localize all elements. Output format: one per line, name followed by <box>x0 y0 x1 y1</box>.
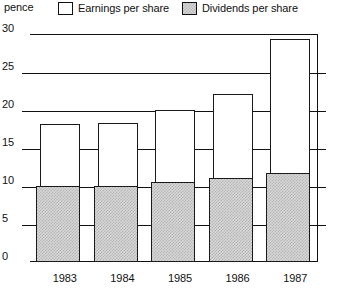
x-axis-tick-label: 1986 <box>210 272 266 284</box>
bar-dividends-1987[interactable] <box>266 173 310 262</box>
bar-group-1983 <box>36 34 94 262</box>
bar-group-1987 <box>266 34 324 262</box>
x-axis-tick-label: 1984 <box>94 272 150 284</box>
shaded-square-icon <box>182 2 197 15</box>
x-axis-tick-label: 1987 <box>267 272 323 284</box>
x-axis-labels: 19831984198519861987 <box>30 272 318 288</box>
bar-dividends-1984[interactable] <box>94 186 138 262</box>
bar-group-1986 <box>209 34 267 262</box>
y-axis-tick-label: 30 <box>2 23 24 34</box>
y-axis-tick-label: 15 <box>2 137 24 148</box>
y-axis-tick-label: 5 <box>2 213 24 224</box>
legend-item-earnings: Earnings per share <box>58 1 169 15</box>
legend-label-dividends: Dividends per share <box>202 2 298 14</box>
bar-group-1985 <box>151 34 209 262</box>
bar-chart: pence Earnings per share Dividends per s… <box>0 0 338 293</box>
bars-layer <box>30 34 318 262</box>
y-axis-tick-label: 10 <box>2 175 24 186</box>
y-axis-tick-label: 25 <box>2 61 24 72</box>
y-axis-unit-label: pence <box>4 1 33 13</box>
bar-dividends-1985[interactable] <box>151 182 195 262</box>
y-axis-tick-label: 20 <box>2 99 24 110</box>
bar-dividends-1983[interactable] <box>36 186 80 262</box>
x-axis-tick-label: 1985 <box>152 272 208 284</box>
legend-label-earnings: Earnings per share <box>78 2 169 14</box>
bar-dividends-1986[interactable] <box>209 178 253 262</box>
chart-legend: pence Earnings per share Dividends per s… <box>0 0 338 18</box>
bar-group-1984 <box>94 34 152 262</box>
legend-item-dividends: Dividends per share <box>182 1 298 15</box>
y-axis-tick-label: 0 <box>2 251 24 262</box>
white-square-icon <box>58 2 73 15</box>
x-axis-tick-label: 1983 <box>37 272 93 284</box>
